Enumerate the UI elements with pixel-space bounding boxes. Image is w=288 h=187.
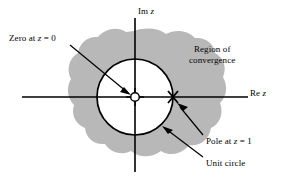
zero-annotation-equals: = 0 xyxy=(44,33,56,43)
real-axis-label: Re z xyxy=(250,88,266,99)
imaginary-axis-label: Im z xyxy=(138,6,154,17)
pole-annotation-equals: = 1 xyxy=(240,136,252,146)
region-of-convergence-label: Region of convergence xyxy=(189,44,235,66)
unit-circle-annotation-label: Unit circle xyxy=(206,158,245,169)
real-axis-var: z xyxy=(263,88,267,98)
z-plane-figure: Zero at z = 0 Im z Re z Region of conver… xyxy=(0,0,288,187)
pole-annotation-text: Pole at xyxy=(206,136,231,146)
imaginary-axis-var: z xyxy=(151,6,155,16)
zero-annotation-label: Zero at z = 0 xyxy=(9,33,56,44)
zero-annotation-text: Zero at xyxy=(9,33,35,43)
pole-annotation-label: Pole at z = 1 xyxy=(206,136,252,147)
real-axis-text: Re xyxy=(250,88,260,98)
region-label-line2: convergence xyxy=(189,55,235,66)
region-label-line1: Region of xyxy=(189,44,235,55)
imaginary-axis-text: Im xyxy=(138,6,148,16)
